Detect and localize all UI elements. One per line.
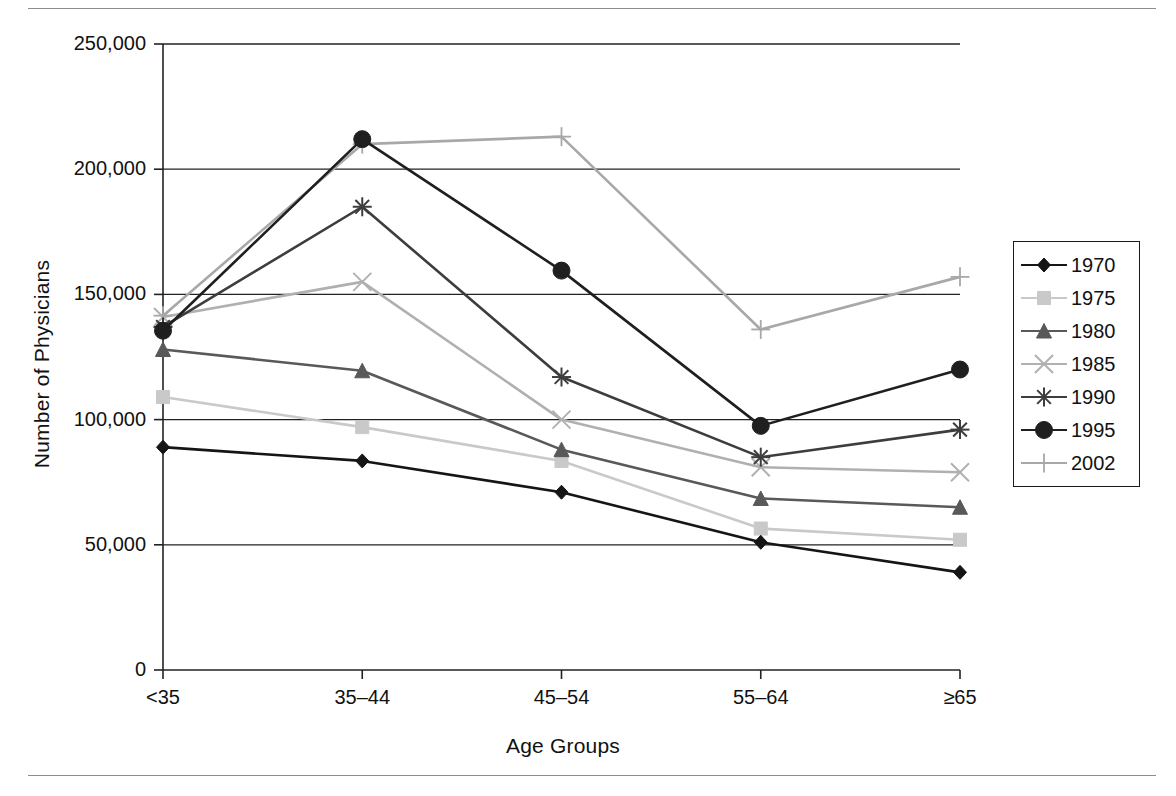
- marker-diamond: [1038, 258, 1051, 272]
- series-2002: [154, 127, 970, 339]
- legend-marker-square-icon: [1021, 288, 1067, 308]
- data-point-square: [356, 421, 369, 434]
- legend-item-1975[interactable]: 1975: [1014, 281, 1139, 314]
- data-point-circle: [1036, 421, 1053, 438]
- x-tick-label: 35–44: [292, 686, 432, 709]
- chart-legend: 1970197519801985199019952002: [1013, 241, 1140, 487]
- marker-circle: [1036, 421, 1053, 438]
- legend-swatch-2002: [1021, 453, 1067, 473]
- data-point-circle: [952, 361, 969, 378]
- marker-square: [356, 421, 369, 434]
- data-point-square: [1038, 291, 1051, 304]
- legend-swatch-1980: [1021, 321, 1067, 341]
- x-tick-label: 55–64: [691, 686, 831, 709]
- series-line-2002: [163, 137, 960, 330]
- x-axis-title: Age Groups: [413, 734, 713, 758]
- legend-marker-asterisk-icon: [1021, 387, 1067, 407]
- legend-swatch-1970: [1021, 255, 1067, 275]
- legend-item-1980[interactable]: 1980: [1014, 314, 1139, 347]
- data-point-asterisk: [353, 197, 372, 216]
- legend-label: 1990: [1071, 387, 1116, 407]
- data-point-square: [954, 533, 967, 546]
- legend-item-1995[interactable]: 1995: [1014, 413, 1139, 446]
- plot-area: [0, 0, 1176, 796]
- data-point-square: [754, 522, 767, 535]
- data-point-diamond: [754, 535, 767, 549]
- data-point-diamond: [1038, 258, 1051, 272]
- data-point-plus: [951, 267, 970, 286]
- legend-label: 1970: [1071, 255, 1116, 275]
- x-tick-label: ≥65: [890, 686, 1030, 709]
- x-tick-label: <35: [93, 686, 233, 709]
- marker-triangle: [554, 442, 569, 457]
- y-tick-label: 100,000: [16, 408, 146, 431]
- data-point-asterisk: [1035, 387, 1054, 406]
- x-tick-label: 45–54: [492, 686, 632, 709]
- legend-label: 1985: [1071, 354, 1116, 374]
- data-point-circle: [752, 417, 769, 434]
- data-point-circle: [553, 262, 570, 279]
- marker-square: [157, 391, 170, 404]
- marker-diamond: [356, 454, 369, 468]
- marker-diamond: [954, 565, 967, 579]
- data-point-asterisk: [552, 368, 571, 387]
- data-point-triangle: [554, 442, 569, 457]
- y-tick-label: 0: [16, 658, 146, 681]
- legend-marker-x-icon: [1021, 354, 1067, 374]
- data-point-circle: [155, 322, 172, 339]
- legend-swatch-1975: [1021, 288, 1067, 308]
- legend-item-1985[interactable]: 1985: [1014, 347, 1139, 380]
- marker-circle: [155, 322, 172, 339]
- y-tick-label: 150,000: [16, 282, 146, 305]
- legend-marker-circle-icon: [1021, 420, 1067, 440]
- marker-circle: [354, 131, 371, 148]
- legend-label: 1995: [1071, 420, 1116, 440]
- data-point-square: [157, 391, 170, 404]
- legend-marker-diamond-icon: [1021, 255, 1067, 275]
- legend-label: 1975: [1071, 288, 1116, 308]
- series-1990: [154, 197, 970, 466]
- series-1995: [155, 131, 969, 435]
- line-chart-figure: Number of Physicians Age Groups 050,0001…: [0, 0, 1176, 796]
- y-tick-label: 250,000: [16, 32, 146, 55]
- marker-square: [954, 533, 967, 546]
- legend-item-1970[interactable]: 1970: [1014, 248, 1139, 281]
- legend-marker-plus-icon: [1021, 453, 1067, 473]
- legend-item-1990[interactable]: 1990: [1014, 380, 1139, 413]
- legend-swatch-1985: [1021, 354, 1067, 374]
- marker-circle: [553, 262, 570, 279]
- legend-item-2002[interactable]: 2002: [1014, 446, 1139, 479]
- y-axis-title: Number of Physicians: [30, 204, 54, 524]
- marker-square: [754, 522, 767, 535]
- data-point-triangle: [1037, 323, 1052, 338]
- marker-diamond: [754, 535, 767, 549]
- legend-swatch-1990: [1021, 387, 1067, 407]
- data-point-diamond: [356, 454, 369, 468]
- data-point-plus: [1035, 453, 1054, 472]
- data-point-asterisk: [951, 420, 970, 439]
- data-point-diamond: [954, 565, 967, 579]
- marker-square: [1038, 291, 1051, 304]
- legend-label: 1980: [1071, 321, 1116, 341]
- legend-label: 2002: [1071, 453, 1116, 473]
- data-point-circle: [354, 131, 371, 148]
- y-tick-label: 200,000: [16, 157, 146, 180]
- marker-circle: [752, 417, 769, 434]
- marker-diamond: [157, 440, 170, 454]
- legend-swatch-1995: [1021, 420, 1067, 440]
- data-point-diamond: [555, 485, 568, 499]
- data-point-diamond: [157, 440, 170, 454]
- legend-marker-triangle-icon: [1021, 321, 1067, 341]
- data-point-x: [1035, 355, 1053, 373]
- y-tick-label: 50,000: [16, 533, 146, 556]
- marker-circle: [952, 361, 969, 378]
- data-point-asterisk: [751, 448, 770, 467]
- marker-diamond: [555, 485, 568, 499]
- marker-triangle: [1037, 323, 1052, 338]
